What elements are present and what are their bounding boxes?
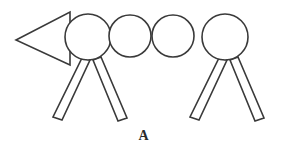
body-circle-2 [109, 15, 151, 57]
body-circle-4 [202, 14, 248, 60]
figure-label-text: A [138, 128, 148, 144]
figure-container: A [0, 0, 287, 148]
body-circle-3 [152, 15, 194, 57]
figure-caption: A [0, 126, 287, 144]
body-circle-1 [65, 14, 111, 60]
